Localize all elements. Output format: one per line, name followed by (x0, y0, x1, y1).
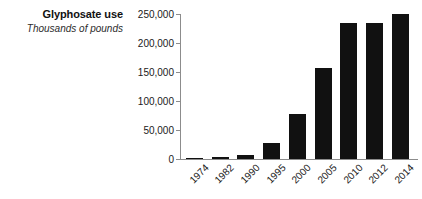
y-axis-tick-label: 250,000 (138, 9, 174, 20)
bar (315, 68, 332, 159)
bar-series (180, 14, 418, 160)
y-axis-tick-label: 150,000 (138, 67, 174, 78)
bar (392, 14, 409, 159)
bar (340, 23, 357, 159)
plot-area: 050,000100,000150,000200,000250,000 (180, 14, 418, 160)
chart-title-block: Glyphosate use Thousands of pounds (8, 8, 123, 35)
bar (212, 157, 229, 159)
y-axis-tick (176, 14, 180, 15)
y-axis-tick-label: 100,000 (138, 96, 174, 107)
bar (237, 155, 254, 159)
y-axis-tick (176, 101, 180, 102)
y-axis-tick-labels: 050,000100,000150,000200,000250,000 (116, 14, 174, 160)
y-axis-tick (176, 43, 180, 44)
bar (366, 23, 383, 159)
y-axis-tick (176, 130, 180, 131)
y-axis-tick-label: 0 (168, 154, 174, 165)
bar (289, 114, 306, 159)
chart-subtitle: Thousands of pounds (8, 22, 123, 35)
chart-figure: Glyphosate use Thousands of pounds 050,0… (0, 0, 422, 199)
y-axis-tick-label: 50,000 (143, 125, 174, 136)
page-title: Glyphosate use (8, 8, 123, 21)
y-axis-tick (176, 159, 180, 160)
bar (263, 143, 280, 159)
y-axis-tick-label: 200,000 (138, 38, 174, 49)
bar (186, 158, 203, 159)
x-axis-tick-labels: 197419821990199520002005201020122014 (180, 162, 420, 199)
y-axis-tick (176, 72, 180, 73)
